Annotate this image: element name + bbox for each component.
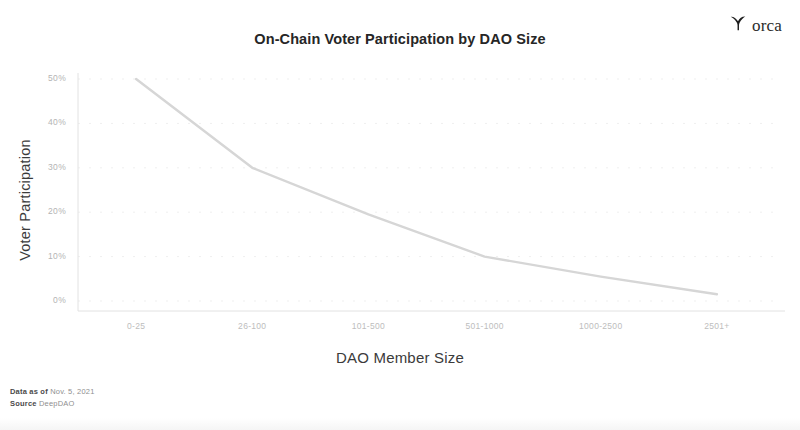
x-tick-label: 101-500 — [352, 321, 385, 331]
footnote: Data as of Nov. 5, 2021 Source DeepDAO — [10, 386, 95, 409]
y-tick-label: 10% — [20, 251, 66, 261]
data-series — [136, 79, 717, 294]
x-tick-label: 2501+ — [704, 321, 729, 331]
footnote-data-as-of-label: Data as of — [10, 387, 48, 396]
footnote-source: Source DeepDAO — [10, 398, 95, 410]
y-tick-label: 20% — [20, 206, 66, 216]
x-tick-label: 26-100 — [238, 321, 266, 331]
footnote-data-as-of: Data as of Nov. 5, 2021 — [10, 386, 95, 398]
x-tick-label: 501-1000 — [465, 321, 503, 331]
gridlines — [78, 79, 775, 301]
series-line — [136, 79, 717, 294]
y-tick-label: 30% — [20, 162, 66, 172]
y-tick-label: 0% — [20, 295, 66, 305]
chart-svg — [0, 0, 800, 430]
x-tick-label: 0-25 — [127, 321, 145, 331]
x-tick-label: 1000-2500 — [579, 321, 622, 331]
axis-lines — [78, 73, 785, 311]
footnote-source-label: Source — [10, 399, 37, 408]
footnote-source-value: DeepDAO — [39, 399, 75, 408]
chart-plot-area — [0, 0, 800, 430]
footnote-data-as-of-value: Nov. 5, 2021 — [50, 387, 94, 396]
y-tick-label: 50% — [20, 73, 66, 83]
y-tick-label: 40% — [20, 117, 66, 127]
